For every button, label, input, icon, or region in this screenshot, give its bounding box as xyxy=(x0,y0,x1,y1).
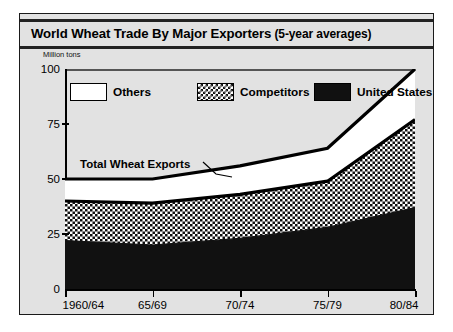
x-tick-mark-70-74 xyxy=(240,291,242,297)
x-tick-label-65-69: 65/69 xyxy=(138,299,167,311)
title-rule-bottom xyxy=(20,46,433,49)
x-tick-mark-1960-64 xyxy=(65,291,67,297)
legend-item-others: Others xyxy=(70,83,151,101)
legend-item-united-states: United States xyxy=(314,83,432,101)
chart-figure: World Wheat Trade By Major Exporters (5-… xyxy=(19,13,434,315)
legend-label-competitors: Competitors xyxy=(240,85,309,99)
title-rule-top xyxy=(20,19,433,22)
x-tick-label-1960-64: 1960/64 xyxy=(63,299,105,311)
chart-legend: Others Competitors United States xyxy=(70,83,400,105)
legend-label-others: Others xyxy=(113,85,151,99)
x-tick-mark-75-79 xyxy=(328,291,330,297)
chart-title: World Wheat Trade By Major Exporters (5-… xyxy=(31,26,371,41)
x-tick-label-75-79: 75/79 xyxy=(313,299,342,311)
x-tick-mark-65-69 xyxy=(153,291,155,297)
y-tick-label-75: 75 xyxy=(26,118,60,130)
legend-label-united-states: United States xyxy=(357,85,432,99)
chart-title-main: World Wheat Trade By Major Exporters xyxy=(31,26,271,41)
legend-swatch-others-icon xyxy=(70,83,107,101)
x-tick-label-70-74: 70/74 xyxy=(226,299,255,311)
legend-swatch-united-states-icon xyxy=(314,83,351,101)
y-tick-label-100: 100 xyxy=(26,63,60,75)
x-tick-label-80-84: 80/84 xyxy=(390,299,419,311)
legend-item-competitors: Competitors xyxy=(197,83,309,101)
chart-title-sub: (5-year averages) xyxy=(271,27,371,41)
y-axis-unit-label: Million tons xyxy=(43,50,81,59)
annotation-total-wheat-exports: Total Wheat Exports xyxy=(80,158,190,170)
y-tick-dash-25 xyxy=(62,233,69,235)
y-tick-label-0: 0 xyxy=(26,283,60,295)
y-tick-label-25: 25 xyxy=(26,228,60,240)
y-tick-label-50: 50 xyxy=(26,173,60,185)
y-tick-dash-75 xyxy=(62,123,69,125)
x-tick-mark-80-84 xyxy=(415,291,417,297)
y-tick-dash-50 xyxy=(62,178,69,180)
legend-swatch-competitors-icon xyxy=(197,83,234,101)
